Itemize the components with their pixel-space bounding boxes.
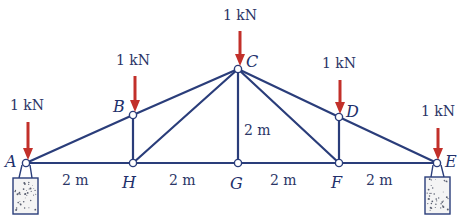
down-arrow-icon	[130, 100, 140, 112]
texture-dot	[28, 182, 29, 183]
texture-dot	[446, 196, 448, 198]
joint-label-b: B	[112, 97, 125, 116]
member-cd	[238, 69, 339, 117]
joint-label-a: A	[3, 152, 17, 171]
load-label: 1 kN	[10, 97, 44, 113]
texture-dot	[446, 181, 448, 183]
joint-f	[335, 159, 342, 166]
texture-dot	[427, 203, 428, 204]
member-bc	[133, 69, 238, 115]
texture-dot	[30, 188, 32, 190]
dimension-label: 2 m	[270, 172, 297, 188]
support-block	[425, 177, 450, 214]
member-cf	[238, 69, 339, 163]
texture-dot	[33, 195, 34, 196]
texture-dot	[438, 197, 439, 198]
support-e	[425, 165, 450, 214]
texture-dot	[430, 210, 431, 211]
dimension-label: 2 m	[62, 172, 89, 188]
texture-dot	[24, 207, 26, 209]
truss-diagram: 1 kN1 kN1 kN1 kN1 kN ABCDEFGH 2 m2 m2 m2…	[0, 0, 464, 218]
texture-dot	[429, 195, 431, 197]
load-label: 1 kN	[223, 7, 257, 23]
joint-label-f: F	[330, 173, 343, 192]
texture-dot	[440, 203, 441, 204]
texture-dot	[16, 209, 17, 210]
texture-dot	[431, 203, 432, 204]
joints	[22, 65, 440, 166]
joint-label-g: G	[230, 174, 243, 193]
joint-e	[433, 159, 440, 166]
texture-dot	[427, 192, 428, 193]
texture-dot	[26, 195, 27, 196]
texture-dot	[25, 197, 26, 198]
texture-dot	[443, 192, 444, 193]
texture-dot	[447, 209, 449, 211]
dimension-label: 2 m	[169, 172, 196, 188]
texture-dot	[447, 198, 448, 199]
texture-dot	[28, 184, 29, 185]
texture-dot	[17, 202, 19, 204]
texture-dot	[429, 178, 431, 180]
texture-dot	[428, 189, 430, 191]
load-label: 1 kN	[116, 52, 150, 68]
joint-label-e: E	[444, 152, 457, 171]
down-arrow-icon	[335, 102, 345, 114]
texture-dot	[23, 201, 25, 203]
texture-dot	[433, 193, 435, 195]
texture-dot	[14, 191, 16, 193]
texture-dot	[26, 190, 27, 191]
joint-c	[234, 65, 241, 72]
texture-dot	[440, 207, 441, 208]
members	[26, 69, 437, 163]
dimension-label: 2 m	[366, 172, 393, 188]
texture-dot	[443, 200, 444, 201]
texture-dot	[24, 194, 25, 195]
texture-dot	[24, 183, 26, 185]
texture-dot	[435, 207, 436, 208]
texture-dot	[17, 193, 19, 195]
joint-a	[22, 159, 29, 166]
joint-b	[129, 111, 136, 118]
texture-dot	[34, 190, 35, 191]
texture-dot	[428, 198, 430, 200]
texture-dot	[29, 189, 30, 190]
texture-dot	[431, 185, 432, 186]
texture-dot	[27, 192, 29, 194]
texture-dot	[444, 180, 445, 181]
texture-dot	[432, 187, 433, 188]
loads: 1 kN1 kN1 kN1 kN1 kN	[10, 7, 455, 160]
texture-dot	[33, 188, 34, 189]
texture-dot	[34, 209, 36, 211]
texture-dot	[28, 207, 29, 208]
texture-dot	[23, 188, 25, 190]
joint-h	[129, 159, 136, 166]
texture-dot	[436, 200, 437, 201]
texture-dot	[431, 179, 432, 180]
load-label: 1 kN	[421, 103, 455, 119]
texture-dot	[20, 204, 22, 206]
texture-dot	[35, 194, 36, 195]
load-a: 1 kN	[10, 97, 44, 160]
dimension-label: 2 m	[244, 122, 271, 138]
down-arrow-icon	[23, 148, 33, 160]
texture-dot	[431, 193, 432, 194]
texture-dot	[442, 205, 444, 207]
down-arrow-icon	[433, 148, 443, 160]
texture-dot	[30, 200, 31, 201]
texture-dot	[435, 198, 437, 200]
texture-dot	[429, 193, 430, 194]
down-arrow-icon	[235, 54, 245, 66]
texture-dot	[19, 192, 21, 194]
support-a	[13, 165, 38, 214]
joint-d	[335, 113, 342, 120]
truss-figure: 1 kN1 kN1 kN1 kN1 kN ABCDEFGH 2 m2 m2 m2…	[0, 0, 464, 218]
texture-dot	[435, 179, 436, 180]
texture-dot	[19, 201, 20, 202]
member-de	[339, 117, 437, 163]
load-label: 1 kN	[322, 55, 356, 71]
texture-dot	[431, 200, 433, 202]
joint-label-h: H	[121, 173, 137, 192]
texture-dot	[431, 208, 432, 209]
member-ab	[26, 115, 133, 163]
